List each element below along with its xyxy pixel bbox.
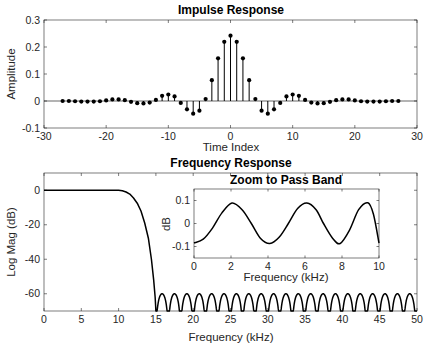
stem-marker — [334, 98, 338, 102]
x-tick-label: 20 — [349, 130, 361, 142]
stem-marker — [347, 97, 351, 101]
x-tick-label: 45 — [374, 313, 386, 325]
stem-marker — [117, 97, 121, 101]
x-tick-label: 30 — [411, 130, 423, 142]
stem-marker — [104, 98, 108, 102]
stem-marker — [129, 100, 133, 104]
impulse-xlabel: Time Index — [203, 141, 260, 153]
x-tick-label: 50 — [411, 313, 423, 325]
stem-marker — [359, 99, 363, 103]
stem-marker — [228, 34, 232, 38]
stem-marker — [141, 101, 145, 105]
x-tick-label: 20 — [187, 313, 199, 325]
stem-marker — [266, 112, 270, 116]
y-tick-label: -0.1 — [172, 240, 190, 252]
stem-marker — [272, 107, 276, 111]
stem-marker — [278, 101, 282, 105]
x-tick-label: 40 — [337, 313, 349, 325]
stem-marker — [148, 101, 152, 105]
frequency-xlabel: Frequency (kHz) — [189, 331, 274, 343]
inset-plot-frame — [194, 189, 379, 258]
stem-marker — [315, 101, 319, 105]
stem-marker — [284, 94, 288, 98]
stem-marker — [297, 94, 301, 98]
stem-marker — [216, 56, 220, 60]
x-tick-label: 15 — [150, 313, 162, 325]
passband-zoom-title: Zoom to Pass Band — [230, 173, 342, 187]
stem-marker — [135, 101, 139, 105]
x-tick-label: 10 — [113, 313, 125, 325]
stem-marker — [79, 99, 83, 103]
stem-marker — [378, 99, 382, 103]
y-tick-label: 0.1 — [175, 194, 190, 206]
stem-marker — [303, 98, 307, 102]
stem-marker — [222, 40, 226, 44]
stem-marker — [353, 98, 357, 102]
stem-marker — [166, 92, 170, 96]
x-tick-label: -20 — [99, 130, 114, 142]
x-tick-label: 5 — [78, 313, 84, 325]
stem-marker — [309, 101, 313, 105]
y-tick-label: 0 — [34, 95, 40, 107]
stem-marker — [197, 109, 201, 113]
stem-marker — [328, 100, 332, 104]
impulse-response-title: Impulse Response — [178, 3, 284, 17]
y-tick-label: -40 — [25, 253, 40, 265]
y-tick-label: -0.1 — [22, 122, 40, 134]
stem-marker — [123, 98, 127, 102]
stem-marker — [185, 107, 189, 111]
y-tick-label: -60 — [25, 287, 40, 299]
x-tick-label: 25 — [225, 313, 237, 325]
stem-marker — [384, 99, 388, 103]
stem-marker — [92, 99, 96, 103]
x-tick-label: 0 — [41, 313, 47, 325]
stem-marker — [247, 78, 251, 82]
x-tick-label: 10 — [287, 130, 299, 142]
x-tick-label: 8 — [339, 260, 345, 272]
stem-marker — [235, 40, 239, 44]
y-tick-label: 0.1 — [25, 68, 40, 80]
x-tick-label: 10 — [373, 260, 385, 272]
y-tick-label: 0 — [184, 217, 190, 229]
stem-marker — [191, 112, 195, 116]
stem-marker — [259, 109, 263, 113]
y-tick-label: -20 — [25, 218, 40, 230]
impulse-response-axes: Impulse Response -30-20-100102030-0.100.… — [5, 3, 423, 153]
frequency-response-title: Frequency Response — [170, 156, 292, 170]
inset-xlabel: Frequency (kHz) — [244, 271, 329, 283]
y-tick-label: 0.2 — [25, 41, 40, 53]
figure: Impulse Response -30-20-100102030-0.100.… — [0, 0, 428, 353]
stem-marker — [61, 99, 65, 103]
x-tick-label: 0 — [191, 260, 197, 272]
y-tick-label: 0.3 — [25, 14, 40, 26]
stem-marker — [210, 78, 214, 82]
x-tick-label: 2 — [228, 260, 234, 272]
stem-marker — [371, 99, 375, 103]
stem-marker — [291, 92, 295, 96]
y-tick-label: 0 — [34, 184, 40, 196]
stem-marker — [390, 99, 394, 103]
x-tick-label: 30 — [262, 313, 274, 325]
stem-marker — [98, 99, 102, 103]
stem-marker — [241, 56, 245, 60]
stem-marker — [154, 98, 158, 102]
stem-marker — [396, 99, 400, 103]
stem-marker — [110, 97, 114, 101]
frequency-ylabel: Log Mag (dB) — [5, 207, 17, 277]
x-tick-label: 35 — [299, 313, 311, 325]
stem-marker — [340, 97, 344, 101]
x-tick-label: -10 — [161, 130, 176, 142]
stem-marker — [322, 101, 326, 105]
stem-marker — [67, 99, 71, 103]
stem-marker — [365, 99, 369, 103]
impulse-ylabel: Amplitude — [5, 48, 17, 99]
stem-marker — [85, 99, 89, 103]
stem-marker — [172, 94, 176, 98]
stem-marker — [253, 97, 257, 101]
inset-ylabel: dB — [160, 217, 172, 231]
stem-marker — [73, 99, 77, 103]
stem-marker — [160, 94, 164, 98]
stem-marker — [204, 97, 208, 101]
stem-marker — [179, 101, 183, 105]
